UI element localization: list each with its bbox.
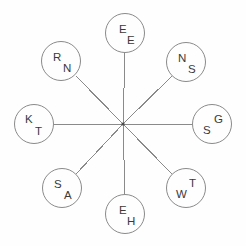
node-bottom-right[interactable]: TW [166,168,206,208]
node-right[interactable]: GS [192,104,232,144]
spoke-line [76,76,123,124]
node-letter-secondary: S [188,64,196,76]
spoke-line [123,76,172,124]
node-letter-secondary: E [127,35,135,47]
spoke-line [123,124,125,194]
node-left[interactable]: KT [14,104,54,144]
node-letter-primary: N [178,53,186,65]
node-top[interactable]: EE [105,13,145,53]
node-top-left[interactable]: RN [41,41,81,81]
node-letter-primary: E [119,205,127,217]
node-letter-secondary: S [203,125,211,137]
node-letter-secondary: W [176,189,187,201]
hub-point [121,122,124,125]
node-letter-primary: S [54,179,62,191]
radial-diagram: EENSGSTWEHSAKTRN [0,0,246,246]
node-top-right[interactable]: NS [166,42,206,82]
node-bottom-left[interactable]: SA [42,168,82,208]
node-letter-primary: E [119,24,127,36]
spoke-line [76,124,123,174]
node-bottom[interactable]: EH [105,194,145,234]
node-letter-secondary: A [64,190,72,202]
node-letter-secondary: N [63,63,71,75]
node-letter-primary: T [189,178,196,190]
spoke-line [123,53,125,124]
node-letter-primary: G [214,114,223,126]
spoke-line [123,124,172,174]
node-letter-secondary: T [35,126,42,138]
node-letter-secondary: H [127,216,135,228]
node-letter-primary: R [53,52,61,64]
node-letter-primary: K [25,114,33,126]
